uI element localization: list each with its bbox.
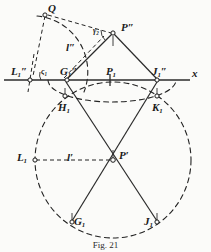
line-ppp-j1pp [114,34,157,79]
segment-label-l-pp: l″ [66,42,75,53]
point-label-ppp: P″ [121,22,134,33]
point-label-j1b: J1 [144,216,153,228]
point-label-pp: P′ [119,150,129,161]
point-label-l1: L1 [17,152,27,164]
geometric-figure: QP″L1″G1″P1J1″H1K1L1P′G1J1l″l′γ₂ς₁x Fig.… [0,0,211,252]
dashed-q-to-ppp [48,15,111,33]
point-label-g1pp: G1″ [60,66,77,78]
marker-pp [111,158,116,163]
marker-l1pp [28,78,32,82]
marker-j1pp [155,78,159,82]
axis-label-x: x [192,68,198,79]
marker-l1 [33,158,37,162]
segment-label-l-p: l′ [67,152,73,163]
marker-k1 [155,94,159,98]
line-g1pp-to-j1b [66,82,157,221]
marker-h1 [63,94,67,98]
point-label-j1pp: J1″ [152,66,167,78]
point-label-h1: H1 [58,102,70,114]
point-label-p1: P1 [106,66,116,78]
marker-q [43,13,47,17]
angle-label-gamma-2: γ₂ [93,27,99,35]
point-label-g1b: G1 [74,216,85,228]
point-label-l1pp: L1″ [11,66,27,78]
figure-canvas [0,0,211,252]
angle-label-sigma-1: ς₁ [41,68,47,76]
point-label-k1: K1 [152,102,163,114]
marker-j1b [155,220,159,224]
line-j1pp-to-g1b [72,82,157,221]
figure-caption: Fig. 21 [0,240,211,250]
marker-ppp [111,31,115,35]
marker-g1pp [65,78,69,82]
point-label-q: Q [48,3,56,14]
